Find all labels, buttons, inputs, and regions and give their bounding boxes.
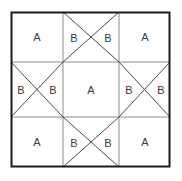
label-middle-right-b-left: B: [125, 84, 132, 96]
label-middle-left-b-right: B: [49, 84, 56, 96]
label-middle-left-b-left: B: [17, 84, 24, 96]
label-bottom-center-b-right: B: [104, 137, 111, 149]
label-bottom-right-a: A: [141, 136, 149, 148]
label-middle-right-b-right: B: [157, 84, 164, 96]
label-top-right-a: A: [141, 31, 149, 43]
label-top-center-b-left: B: [70, 32, 77, 44]
tiling-diagram: A B B A B B A B B A B B A: [0, 0, 182, 181]
label-top-center-b-right: B: [104, 32, 111, 44]
label-bottom-left-a: A: [33, 136, 41, 148]
tiling-svg: A B B A B B A B B A B B A: [0, 0, 182, 181]
label-bottom-center-b-left: B: [70, 137, 77, 149]
label-center-a: A: [87, 84, 95, 96]
label-top-left-a: A: [33, 31, 41, 43]
